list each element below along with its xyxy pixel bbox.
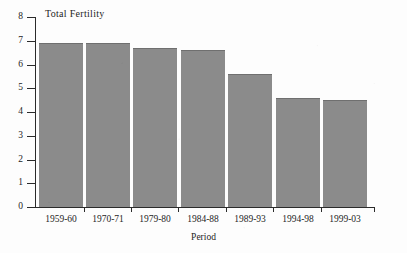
x-axis-end-tick	[374, 207, 375, 212]
x-tick-6	[321, 207, 322, 212]
bar-1984-88	[181, 50, 225, 207]
x-axis-title: Period	[0, 232, 407, 243]
x-tick-5	[273, 207, 274, 212]
y-tick-7	[27, 41, 35, 42]
x-tick-label-1989-93: 1989-93	[228, 214, 272, 225]
y-tick-label-4: 4	[0, 107, 23, 117]
x-tick-label-1979-80: 1979-80	[133, 214, 177, 225]
x-tick-1	[84, 207, 85, 212]
y-tick-label-8: 8	[0, 12, 23, 22]
y-tick-3	[27, 136, 35, 137]
x-tick-label-1994-98: 1994-98	[276, 214, 320, 225]
x-tick-label-1984-88: 1984-88	[181, 214, 225, 225]
x-tick-2	[131, 207, 132, 212]
bar-1979-80	[133, 48, 177, 207]
y-tick-4	[27, 112, 35, 113]
y-axis-line	[35, 17, 36, 208]
y-tick-8	[27, 17, 35, 18]
chart-title: Total Fertility	[45, 8, 105, 19]
y-tick-0	[27, 207, 35, 208]
y-tick-1	[27, 183, 35, 184]
y-tick-5	[27, 88, 35, 89]
y-tick-label-3: 3	[0, 131, 23, 141]
y-tick-label-0: 0	[0, 202, 23, 212]
y-tick-label-1: 1	[0, 178, 23, 188]
bar-chart-plot-area: Total Fertility 0 1 2 3 4 5 6 7 8	[0, 0, 407, 253]
chart-figure: Total Fertility 0 1 2 3 4 5 6 7 8	[0, 0, 407, 253]
bar-1994-98	[276, 98, 320, 207]
x-tick-label-1970-71: 1970-71	[86, 214, 130, 225]
bar-1970-71	[86, 43, 130, 207]
y-tick-label-7: 7	[0, 36, 23, 46]
y-tick-label-2: 2	[0, 155, 23, 165]
x-tick-label-1959-60: 1959-60	[39, 214, 83, 225]
y-tick-label-5: 5	[0, 83, 23, 93]
x-tick-4	[226, 207, 227, 212]
y-tick-6	[27, 65, 35, 66]
bar-1989-93	[228, 74, 272, 207]
y-tick-label-6: 6	[0, 60, 23, 70]
bar-1999-03	[323, 100, 367, 207]
y-tick-2	[27, 160, 35, 161]
bar-1959-60	[39, 43, 83, 207]
x-tick-label-1999-03: 1999-03	[323, 214, 367, 225]
x-tick-3	[178, 207, 179, 212]
x-axis-line	[35, 207, 375, 208]
